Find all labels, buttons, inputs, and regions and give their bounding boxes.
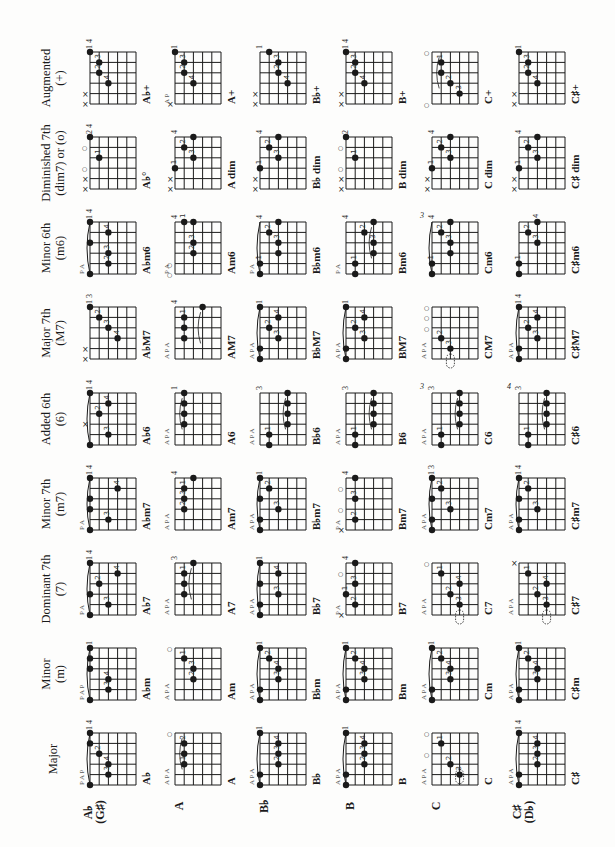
finger-dot <box>87 666 93 672</box>
chord-name: C♯+ <box>569 84 581 104</box>
finger-dot <box>343 356 349 362</box>
finger-number: 3 <box>179 490 187 494</box>
finger-number: 2 <box>179 501 187 505</box>
finger-number: 2 <box>523 139 531 143</box>
open-string-icon: ○ <box>338 485 343 492</box>
top-string-fingering: 4 <box>427 130 436 134</box>
finger-dot <box>370 411 376 417</box>
finger-number: 4 <box>455 575 463 580</box>
chord-name: C♯M7 <box>569 330 581 359</box>
finger-number: 3 <box>94 54 102 58</box>
finger-dot <box>181 506 187 512</box>
chord-type-symbol: (m7) <box>53 479 67 529</box>
finger-number: 2 <box>350 650 358 654</box>
finger-dot <box>266 49 272 55</box>
chord-name: C+ <box>482 90 494 104</box>
finger-number: 4 <box>359 734 367 739</box>
finger-number: 4 <box>113 564 121 569</box>
finger-number: 3 <box>273 54 281 58</box>
finger-dot <box>275 70 281 76</box>
finger-number: 2 <box>359 224 367 228</box>
finger-dot <box>438 431 444 437</box>
finger-number: 2 <box>350 596 358 600</box>
chord-name: C <box>482 777 494 785</box>
chord-type-label: Dominant 7th <box>39 554 53 623</box>
chord-name: Bm7 <box>396 508 408 530</box>
finger-dot <box>352 260 358 266</box>
open-string-icon: ○ <box>167 261 172 268</box>
finger-dot <box>87 612 93 618</box>
finger-number: 3 <box>532 671 540 675</box>
finger-number: 2 <box>94 405 102 409</box>
finger-number: 1 <box>436 426 444 430</box>
finger-number: 2 <box>532 586 540 590</box>
chord-name: A dim <box>225 161 237 189</box>
chord-diagram: 3241A P× <box>153 38 239 120</box>
finger-number: 3 <box>103 681 111 685</box>
chord-type-symbol: (6) <box>53 393 67 445</box>
chord-name: C7 <box>482 602 494 615</box>
top-string-fingering: 1 <box>427 641 436 645</box>
open-string-icon: ○ <box>167 645 172 652</box>
finger-dot <box>87 271 93 277</box>
finger-dot <box>534 155 540 161</box>
finger-number: 1 <box>427 160 435 164</box>
finger-number: 2 <box>94 575 102 579</box>
chord-name: B dim <box>396 161 408 189</box>
chord-name: B♭m <box>310 679 323 701</box>
chord-diagram: 4321A P A <box>238 719 324 801</box>
finger-dot <box>266 655 272 661</box>
finger-dot <box>370 400 376 406</box>
finger-dot <box>534 591 540 597</box>
top-string-fingering: 1 <box>341 300 350 304</box>
muted-string-icon: × <box>511 100 518 109</box>
top-string-fingering: 2 4 <box>85 124 94 134</box>
finger-dot <box>456 390 462 396</box>
finger-number: 4 <box>103 394 111 399</box>
chord-name: AM7 <box>225 335 237 359</box>
top-string-fingering: 1 <box>255 300 264 304</box>
chord-diagram: 4231 4× <box>68 379 154 461</box>
finger-dot <box>284 421 290 427</box>
chord-diagram: 1423A P A○ <box>410 549 496 631</box>
chord-type-symbol: (7) <box>53 554 67 623</box>
finger-dot <box>534 506 540 512</box>
finger-dot <box>352 431 358 437</box>
muted-string-icon: × <box>82 90 89 99</box>
finger-dot <box>87 240 93 246</box>
chord-name: BM7 <box>396 336 408 359</box>
finger-number: 1 <box>436 54 444 58</box>
muted-string-icon: × <box>167 175 174 184</box>
finger-dot <box>257 271 263 277</box>
chord-type-label: Diminished 7th <box>39 124 53 201</box>
chord-name: CM7 <box>482 335 494 359</box>
string-pattern-label: A P A <box>248 429 256 445</box>
finger-dot <box>534 240 540 246</box>
finger-dot <box>190 155 196 161</box>
finger-number: 2 <box>264 139 272 143</box>
finger-number: 3 <box>188 149 196 153</box>
chord-diagram: 2431A P A <box>410 634 496 716</box>
finger-dot <box>429 271 435 277</box>
muted-string-icon: × <box>338 185 345 194</box>
chord-type-label: Minor <box>39 658 53 689</box>
finger-number: 4 <box>359 74 367 79</box>
finger-dot <box>275 240 281 246</box>
finger-dot <box>534 335 540 341</box>
string-pattern-label: P A P <box>78 685 86 700</box>
finger-number: 1 <box>179 214 187 218</box>
chord-diagram: 2431A P A <box>324 634 410 716</box>
finger-dot <box>456 90 462 96</box>
finger-number: 3 <box>273 234 281 238</box>
chord-diagram: 13A P A <box>153 549 239 631</box>
finger-dot <box>266 431 272 437</box>
chord-name: A <box>225 777 237 785</box>
chord-diagram: 2431A P A <box>497 634 583 716</box>
finger-number: 2 <box>188 671 196 675</box>
chord-type-symbol: (m6) <box>53 223 67 273</box>
chord-name: B+ <box>396 90 408 104</box>
chord-name: B <box>396 778 408 785</box>
finger-number: 3 <box>532 234 540 238</box>
finger-number: 3 <box>445 501 453 505</box>
finger-dot <box>429 686 435 692</box>
